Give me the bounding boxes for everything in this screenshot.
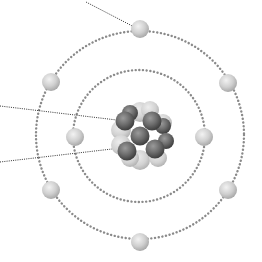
- electron-outer-lower-right: [219, 181, 237, 199]
- neutron: [143, 112, 162, 131]
- atom-diagram: [0, 0, 262, 262]
- neutron: [118, 142, 137, 161]
- electron-outer-upper-left: [42, 73, 60, 91]
- electron-outer-top: [131, 20, 149, 38]
- electron-inner-left: [66, 128, 84, 146]
- nucleus: [111, 101, 174, 170]
- electron-outer-upper-right: [219, 74, 237, 92]
- electron-inner-right: [195, 128, 213, 146]
- neutron: [146, 140, 165, 159]
- proton-leader-line: [0, 149, 112, 162]
- neutron: [116, 112, 135, 131]
- neutron-leader-line: [0, 106, 125, 121]
- electron-outer-lower-left: [42, 181, 60, 199]
- neutron: [131, 127, 150, 146]
- electron-outer-bottom: [131, 233, 149, 251]
